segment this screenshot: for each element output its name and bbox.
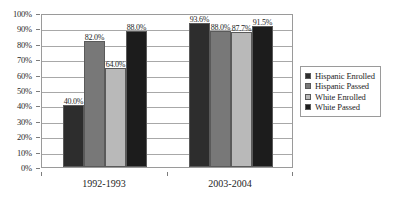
bars-layer: 40.0%82.0%64.0%88.0%93.6%88.0%87.7%91.5%: [42, 15, 292, 167]
y-tick-label: 40%: [17, 101, 32, 111]
legend-label: White Passed: [315, 102, 360, 112]
y-tick-mark: [36, 153, 40, 154]
y-tick-label: 60%: [17, 71, 32, 81]
bar-chart-figure: 0%10%20%30%40%50%60%70%80%90%100% 40.0%8…: [0, 0, 402, 204]
bar-value-label: 88.0%: [127, 23, 147, 33]
bar: [210, 31, 231, 167]
legend-swatch-icon: [305, 104, 311, 110]
legend-item: Hispanic Passed: [305, 81, 375, 91]
legend-label: White Enrolled: [315, 92, 366, 102]
legend-item: White Enrolled: [305, 92, 375, 102]
legend-swatch-icon: [305, 83, 311, 89]
x-tick-label: 2003-2004: [208, 178, 251, 189]
plot-area: 40.0%82.0%64.0%88.0%93.6%88.0%87.7%91.5%: [41, 14, 293, 168]
legend-swatch-icon: [305, 73, 311, 79]
bar: [189, 23, 210, 167]
x-tick-mark: [167, 172, 168, 176]
y-tick-label: 80%: [17, 40, 32, 50]
y-tick-mark: [36, 168, 40, 169]
y-tick-mark: [36, 76, 40, 77]
y-tick-label: 70%: [17, 55, 32, 65]
bar-value-label: 91.5%: [253, 18, 273, 28]
bar: [126, 31, 147, 167]
y-tick-mark: [36, 91, 40, 92]
legend-item: Hispanic Enrolled: [305, 71, 375, 81]
bar: [105, 68, 126, 167]
legend-item: White Passed: [305, 102, 375, 112]
bar-value-label: 87.7%: [232, 24, 252, 34]
bar-value-label: 82.0%: [85, 33, 105, 43]
bar-value-label: 88.0%: [211, 23, 231, 33]
y-axis: 0%10%20%30%40%50%60%70%80%90%100%: [0, 14, 36, 168]
y-tick-label: 20%: [17, 132, 32, 142]
legend-label: Hispanic Enrolled: [315, 71, 375, 81]
y-tick-mark: [36, 14, 40, 15]
bar: [63, 105, 84, 167]
y-tick-label: 100%: [13, 9, 32, 19]
y-tick-mark: [36, 137, 40, 138]
bar-value-label: 93.6%: [190, 15, 210, 25]
x-tick-label: 1992-1993: [82, 178, 125, 189]
legend-swatch-icon: [305, 94, 311, 100]
legend-label: Hispanic Passed: [315, 81, 369, 91]
bar: [84, 41, 105, 167]
y-tick-mark: [36, 106, 40, 107]
chart-legend: Hispanic EnrolledHispanic PassedWhite En…: [300, 66, 381, 117]
bar-value-label: 40.0%: [64, 97, 84, 107]
x-axis: 1992-19932003-2004: [41, 172, 293, 194]
y-tick-label: 10%: [17, 148, 32, 158]
x-tick-mark: [41, 172, 42, 176]
y-tick-label: 90%: [17, 24, 32, 34]
bar: [252, 26, 273, 167]
y-tick-label: 0%: [21, 163, 32, 173]
y-tick-mark: [36, 29, 40, 30]
y-tick-mark: [36, 60, 40, 61]
y-tick-mark: [36, 122, 40, 123]
y-tick-label: 30%: [17, 117, 32, 127]
bar-value-label: 64.0%: [106, 60, 126, 70]
x-tick-mark: [292, 172, 293, 176]
bar-group: 93.6%88.0%87.7%91.5%: [168, 15, 294, 167]
y-tick-label: 50%: [17, 86, 32, 96]
y-tick-mark: [36, 45, 40, 46]
bar-group: 40.0%82.0%64.0%88.0%: [42, 15, 168, 167]
bar: [231, 32, 252, 167]
